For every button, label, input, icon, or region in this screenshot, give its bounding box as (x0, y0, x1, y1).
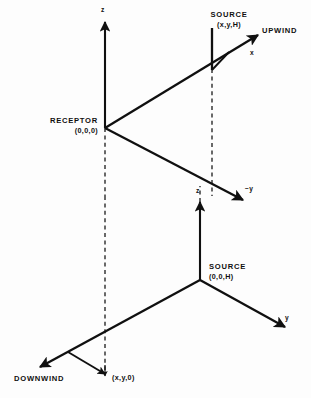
receptor-label: RECEPTOR (18, 117, 98, 125)
downwind-wind-label: DOWNWIND (14, 375, 64, 383)
upwind-source-coords-label: (x,y,H) (200, 21, 258, 29)
downwind-ground-point-label: (x,y,0) (112, 374, 135, 382)
receptor-coords-label: (0,0,0) (18, 127, 98, 135)
downwind-y-axis (200, 280, 285, 327)
downwind-y-axis-label: y (285, 315, 289, 322)
figure-vector-canvas (0, 0, 311, 398)
downwind-source-coords-label: (0,0,H) (209, 273, 233, 281)
downwind-x-axis (40, 280, 200, 367)
dispersion-coordinate-figure: z SOURCE (x,y,H) UPWIND x RECEPTOR (0,0,… (0, 0, 311, 398)
upwind-wind-label: UPWIND (262, 27, 297, 35)
upwind-diagram-group (105, 22, 258, 200)
upwind-minus-y-axis-label: −y (245, 186, 253, 193)
upwind-minus-y-axis (105, 128, 243, 200)
upwind-z-axis-label: z (101, 7, 105, 14)
upwind-x-axis (105, 35, 258, 128)
downwind-z-axis-label: z (196, 188, 200, 195)
downwind-source-label: SOURCE (209, 263, 246, 271)
upwind-source-label: SOURCE (200, 11, 258, 19)
downwind-ground-connector (68, 352, 105, 374)
downwind-diagram-group (40, 186, 285, 376)
upwind-x-axis-label: x (250, 50, 254, 57)
